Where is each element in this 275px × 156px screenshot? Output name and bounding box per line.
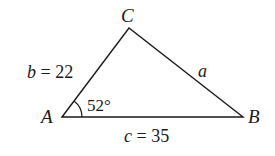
side-c-eq: = — [132, 126, 151, 146]
side-b-value: 22 — [55, 62, 73, 82]
vertex-label-b: B — [248, 106, 260, 127]
side-c-label: c = 35 — [124, 126, 169, 146]
vertex-label-a: A — [39, 106, 53, 127]
side-c-var: c — [124, 126, 132, 146]
angle-a-label: 52° — [87, 96, 111, 115]
triangle-diagram: C A B b = 22 a 52° c = 35 — [0, 0, 275, 156]
angle-a-arc — [74, 101, 82, 117]
side-c-value: 35 — [151, 126, 169, 146]
side-b-var: b — [27, 62, 36, 82]
side-b-eq: = — [36, 62, 55, 82]
vertex-label-c: C — [121, 5, 134, 26]
side-a-label: a — [198, 61, 207, 81]
side-b-label: b = 22 — [27, 62, 73, 82]
